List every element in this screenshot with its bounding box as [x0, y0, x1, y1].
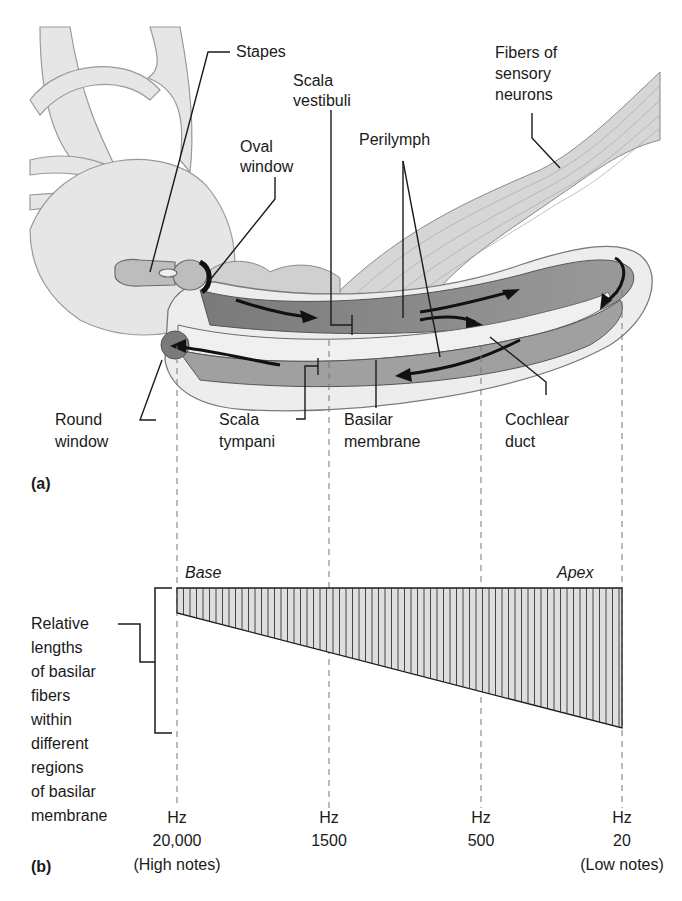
side-label-line: lengths: [31, 638, 83, 657]
tick-value: 500: [441, 831, 521, 850]
label-cochlear-duct-1: Cochlear: [505, 410, 569, 429]
side-label-line: of basilar: [31, 782, 96, 801]
label-oval-window-1: Oval: [240, 137, 273, 156]
relative-lengths-bracket: [118, 588, 172, 733]
label-fibers-1: Fibers of: [495, 43, 557, 62]
tick-unit: Hz: [441, 808, 521, 827]
label-oval-window-2: window: [240, 157, 293, 176]
basilar-fiber-length-wedge: [177, 588, 622, 728]
tick-value: 20,000: [117, 831, 237, 850]
label-basilar-membrane-1: Basilar: [344, 410, 393, 429]
label-apex: Apex: [557, 563, 593, 582]
label-basilar-membrane-2: membrane: [344, 432, 420, 451]
side-label-line: of basilar: [31, 662, 96, 681]
label-round-window-1: Round: [55, 410, 102, 429]
tick-note: (High notes): [117, 855, 237, 874]
tick-unit: Hz: [289, 808, 369, 827]
tick-value: 1500: [289, 831, 369, 850]
label-perilymph: Perilymph: [359, 130, 430, 149]
cochlea-figure: Stapes Scala vestibuli Oval window Peril…: [0, 0, 682, 901]
label-base: Base: [185, 563, 221, 582]
panel-a-tag: (a): [31, 474, 51, 493]
label-scala-tympani-1: Scala: [219, 410, 259, 429]
label-scala-tympani-2: tympani: [219, 432, 275, 451]
stapes-bone: [115, 259, 207, 290]
side-label-line: Relative: [31, 614, 89, 633]
side-label-line: different: [31, 734, 89, 753]
tick-note: (Low notes): [562, 855, 682, 874]
side-label-line: within: [31, 710, 72, 729]
tick-value: 20: [562, 831, 682, 850]
label-scala-vestibuli-1: Scala: [293, 71, 333, 90]
label-scala-vestibuli-2: vestibuli: [293, 91, 351, 110]
label-fibers-2: sensory: [495, 64, 551, 83]
label-round-window-2: window: [55, 432, 108, 451]
panel-b-tag: (b): [31, 857, 51, 876]
label-stapes: Stapes: [236, 42, 286, 61]
label-cochlear-duct-2: duct: [505, 432, 535, 451]
side-label-line: regions: [31, 758, 83, 777]
label-fibers-3: neurons: [495, 85, 553, 104]
tick-unit: Hz: [562, 808, 682, 827]
side-label-line: membrane: [31, 806, 107, 825]
tick-unit: Hz: [117, 808, 237, 827]
side-label-line: fibers: [31, 686, 70, 705]
